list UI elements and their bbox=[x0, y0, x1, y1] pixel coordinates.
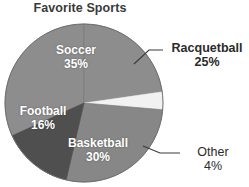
callout-label-other: Other 4% bbox=[182, 145, 244, 173]
callout-label-racquetball: Racquetball 25% bbox=[166, 41, 248, 69]
pie-chart-figure: Favorite Sports So bbox=[0, 0, 249, 187]
callout-label-racquetball-percent: 25% bbox=[166, 55, 248, 69]
callout-label-other-name: Other bbox=[197, 145, 228, 159]
callout-label-other-percent: 4% bbox=[182, 159, 244, 173]
callout-label-racquetball-name: Racquetball bbox=[172, 41, 243, 55]
pie-slice-racquetball[interactable] bbox=[84, 24, 162, 103]
